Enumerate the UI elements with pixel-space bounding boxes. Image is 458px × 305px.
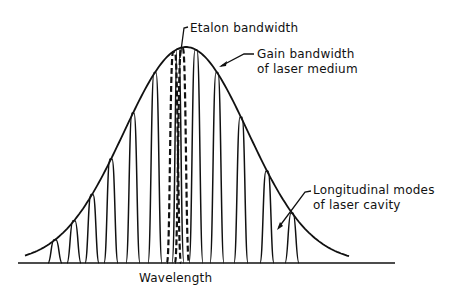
gain-arrow-head (219, 61, 227, 67)
mode-peak (189, 50, 203, 263)
mode-peak (210, 72, 224, 263)
gain-bandwidth-label-line1: Gain bandwidth (257, 47, 354, 61)
gain-bandwidth-label-line2: of laser medium (257, 62, 358, 76)
longitudinal-modes-label-line1: Longitudinal modes (313, 183, 435, 197)
etalon-passband (167, 48, 189, 263)
wavelength-axis-label: Wavelength (139, 271, 212, 285)
mode-peak (85, 195, 99, 263)
mode-peak (260, 171, 274, 263)
diagram-canvas (0, 0, 458, 305)
mode-peak (148, 72, 162, 263)
etalon-bandwidth-label: Etalon bandwidth (190, 21, 298, 35)
mode-peak (104, 159, 118, 263)
mode-peak (126, 113, 140, 263)
longitudinal-modes-label-line2: of laser cavity (313, 198, 401, 212)
mode-peak (234, 117, 248, 263)
